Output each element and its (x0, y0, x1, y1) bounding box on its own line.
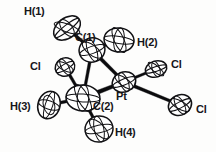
atom-label-c1: C(1) (75, 31, 96, 43)
atom-label-h3: H(3) (10, 100, 31, 112)
atom-label-c2: C(2) (93, 100, 114, 112)
atom-label-clr: Cl (196, 103, 207, 115)
atom-label-h4: H(4) (115, 126, 136, 138)
atom-label-h2: H(2) (137, 36, 158, 48)
ortep-figure: H(1)C(1)H(2)ClC(2)H(3)H(4)PtClCl (0, 0, 216, 152)
atom-label-h1: H(1) (24, 5, 45, 17)
atom-label-clu: Cl (171, 58, 182, 70)
atom-label-pt: Pt (116, 90, 127, 102)
atom-label-cll: Cl (30, 60, 41, 72)
molecular-structure-diagram: H(1)C(1)H(2)ClC(2)H(3)H(4)PtClCl (0, 0, 216, 152)
